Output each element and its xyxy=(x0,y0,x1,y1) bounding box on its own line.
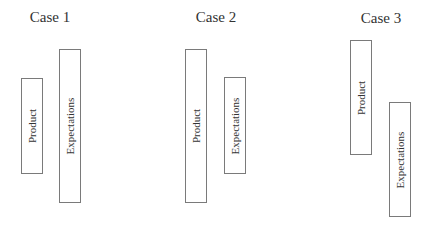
case-3-expectations-label: Expectations xyxy=(394,131,406,188)
case-3-title: Case 3 xyxy=(361,9,401,27)
case-3-product-label: Product xyxy=(355,80,367,114)
case-2-expectations-label: Expectations xyxy=(229,97,241,154)
case-1-product-label: Product xyxy=(26,109,38,143)
case-3-expectations-box: Expectations xyxy=(389,102,411,217)
case-3-product-box: Product xyxy=(350,40,372,155)
case-2-title: Case 2 xyxy=(196,8,236,26)
case-1-expectations-label: Expectations xyxy=(64,98,76,155)
case-1-product-box: Product xyxy=(21,78,43,174)
case-1-expectations-box: Expectations xyxy=(59,49,81,203)
case-1-title: Case 1 xyxy=(30,8,70,26)
case-2-expectations-box: Expectations xyxy=(224,77,246,174)
case-2-product-label: Product xyxy=(190,109,202,143)
case-2-product-box: Product xyxy=(185,49,207,203)
